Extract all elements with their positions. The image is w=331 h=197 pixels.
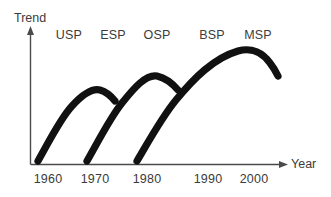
x-tick-label-1980: 1980 bbox=[133, 172, 162, 186]
x-axis-arrow-icon bbox=[279, 161, 288, 168]
phase-label-msp: MSP bbox=[244, 28, 272, 42]
y-axis-arrow-icon bbox=[27, 26, 34, 35]
phase-label-bsp: BSP bbox=[199, 28, 225, 42]
x-tick-label-2000: 2000 bbox=[240, 172, 269, 186]
phase-label-usp: USP bbox=[56, 28, 82, 42]
phase-label-esp: ESP bbox=[100, 28, 126, 42]
trend-chart: Trend Year 1960 1970 1980 1990 2000 USP … bbox=[0, 0, 331, 197]
y-axis-title: Trend bbox=[14, 11, 46, 25]
phase-label-osp: OSP bbox=[144, 28, 171, 42]
x-tick-label-1990: 1990 bbox=[194, 172, 223, 186]
x-tick-label-1960: 1960 bbox=[34, 172, 63, 186]
x-tick-label-1970: 1970 bbox=[81, 172, 110, 186]
osp-bsp-msp-s-curve bbox=[137, 50, 278, 161]
chart-canvas: Trend Year 1960 1970 1980 1990 2000 USP … bbox=[0, 0, 331, 197]
x-axis-title: Year bbox=[291, 157, 316, 171]
